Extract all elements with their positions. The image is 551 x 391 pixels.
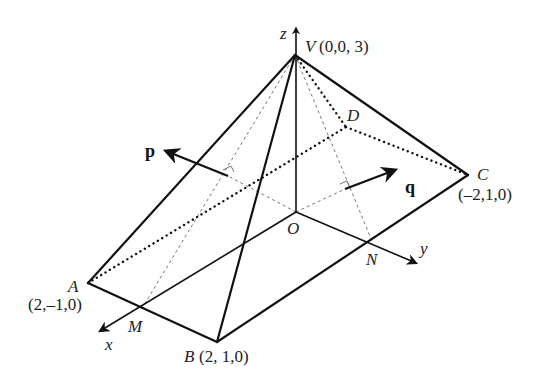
x-axis: [100, 212, 296, 331]
point-label-N: N: [365, 250, 379, 269]
axis-label-z: z: [279, 24, 287, 43]
vector-p-arrow: [166, 151, 228, 176]
point-coords-V: (0,0, 3): [319, 37, 369, 56]
point-label-D: D: [346, 106, 360, 125]
point-coords-C: (–2,1,0): [458, 185, 512, 204]
axis-label-y: y: [418, 239, 428, 258]
construction-lines: [141, 55, 372, 310]
hidden-edges: [88, 55, 468, 283]
point-coords-B: (2, 1,0): [199, 347, 249, 366]
pyramid-diagram: z V (0,0, 3) D C (–2,1,0) O N y A (2,–1,…: [0, 0, 551, 391]
edge-DC: [346, 127, 468, 175]
point-label-M: M: [127, 317, 143, 336]
line-O-to-q-foot: [296, 189, 345, 212]
vector-q-arrow: [345, 170, 395, 189]
point-label-O: O: [287, 219, 299, 238]
vector-label-p: p: [145, 141, 155, 161]
edge-AB: [88, 283, 217, 342]
line-VM: [141, 55, 295, 310]
point-coords-A: (2,–1,0): [28, 295, 82, 314]
point-label-C: C: [477, 165, 489, 184]
visible-edges: [88, 55, 468, 342]
point-label-A: A: [67, 277, 79, 296]
line-O-to-p-foot: [228, 176, 296, 212]
point-label-B: B: [184, 347, 195, 366]
point-label-V: V: [305, 37, 318, 56]
axis-label-x: x: [104, 335, 113, 354]
right-angle-p: [223, 166, 234, 172]
vector-label-q: q: [405, 177, 415, 197]
normal-vectors: [166, 151, 395, 189]
edge-VC: [295, 55, 468, 175]
y-axis: [296, 212, 416, 263]
